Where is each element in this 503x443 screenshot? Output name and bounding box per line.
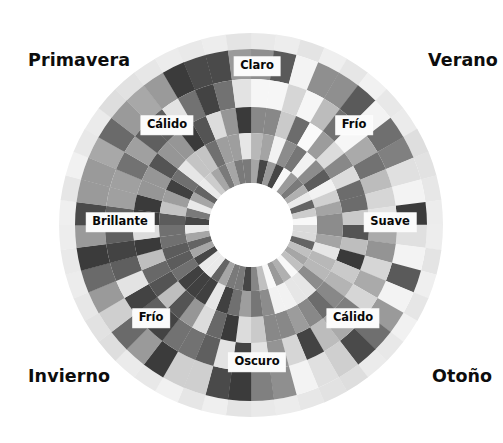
wheel-segment bbox=[251, 399, 276, 417]
ring-label-brillante: Brillante bbox=[86, 213, 154, 232]
ring-label-calido-primavera: Cálido bbox=[141, 116, 193, 135]
wheel-segment bbox=[226, 399, 251, 417]
ring-label-claro: Claro bbox=[234, 57, 280, 76]
wheel-segment bbox=[251, 370, 274, 401]
ring-label-suave: Suave bbox=[364, 213, 416, 232]
color-wheel-figure: Primavera Verano Invierno Otoño Claro Fr… bbox=[0, 0, 503, 443]
ring-label-calido-otono: Cálido bbox=[327, 309, 379, 328]
wheel-segment bbox=[251, 33, 276, 51]
wheel-segment bbox=[425, 225, 443, 250]
wheel-segment bbox=[425, 200, 443, 225]
season-label-verano: Verano bbox=[428, 52, 498, 70]
wheel-segment bbox=[59, 225, 77, 250]
ring-label-frio-verano: Frío bbox=[336, 116, 373, 135]
ring-label-frio-invierno: Frío bbox=[133, 309, 170, 328]
ring-label-oscuro: Oscuro bbox=[228, 353, 285, 372]
season-label-otono: Otoño bbox=[432, 368, 492, 386]
season-label-primavera: Primavera bbox=[28, 52, 130, 70]
wheel-segment bbox=[59, 200, 77, 225]
season-label-invierno: Invierno bbox=[28, 368, 110, 386]
wheel-segment bbox=[226, 33, 251, 51]
wheel-center-hole bbox=[209, 183, 293, 267]
